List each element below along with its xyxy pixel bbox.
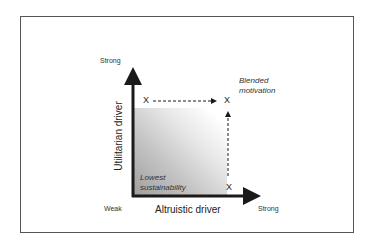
y-axis-strong-label: Strong xyxy=(100,57,121,64)
marker-top-right: X xyxy=(224,95,230,105)
lowest-sustainability-line2: sustainability xyxy=(140,183,186,193)
blended-motivation-line2: motivation xyxy=(239,86,275,96)
blended-motivation-label: Blended motivation xyxy=(239,76,275,96)
y-axis-title: Utilitarian driver xyxy=(113,101,124,170)
blended-motivation-line1: Blended xyxy=(239,76,275,86)
marker-top-left: X xyxy=(143,95,149,105)
x-axis-weak-label: Weak xyxy=(104,205,122,212)
x-axis-strong-label: Strong xyxy=(258,205,279,212)
marker-bottom-right: X xyxy=(226,182,232,192)
lowest-sustainability-label: Lowest sustainability xyxy=(140,173,186,193)
x-axis-title: Altruistic driver xyxy=(155,204,221,215)
lowest-sustainability-line1: Lowest xyxy=(140,173,186,183)
